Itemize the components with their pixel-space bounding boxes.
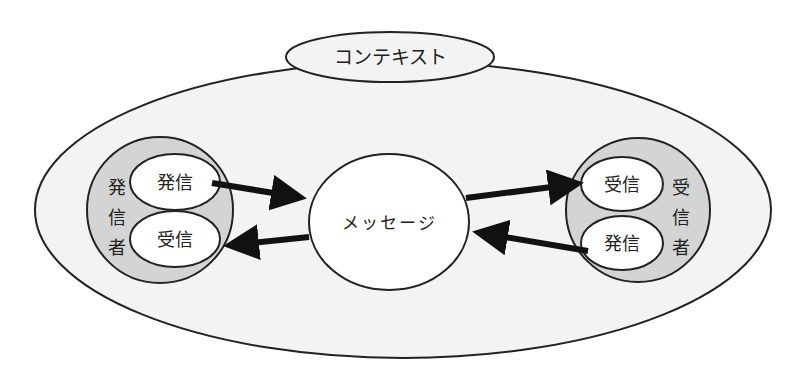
communication-diagram: コンテキスト 発 信 者 発信 受信 受 信 者 受信 発信 メッ (0, 0, 801, 380)
sender-char-3: 者 (108, 237, 126, 258)
context-label: コンテキスト (334, 46, 447, 68)
sender-group: 発 信 者 発信 受信 (87, 137, 233, 283)
svg-text:受信: 受信 (604, 174, 640, 195)
sender-char-2: 信 (108, 207, 126, 228)
sender-receive-node: 受信 (130, 211, 220, 267)
message-node: メッセージ (309, 154, 469, 290)
svg-text:発信: 発信 (604, 233, 640, 254)
receiver-char-2: 信 (672, 207, 690, 228)
context-label-node: コンテキスト (286, 32, 494, 82)
receiver-char-1: 受 (672, 177, 690, 198)
receiver-receive-node: 受信 (581, 157, 663, 211)
svg-text:発信: 発信 (157, 172, 193, 193)
svg-text:メッセージ: メッセージ (342, 213, 437, 233)
receiver-char-3: 者 (672, 237, 690, 258)
sender-send-node: 発信 (130, 154, 220, 210)
sender-char-1: 発 (108, 177, 126, 198)
receiver-group: 受 信 者 受信 発信 (566, 138, 710, 282)
receiver-send-node: 発信 (581, 216, 663, 270)
svg-text:受信: 受信 (157, 229, 193, 250)
